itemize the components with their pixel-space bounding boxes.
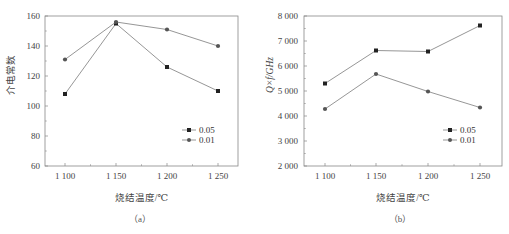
data-point	[426, 50, 430, 54]
series-line-0.01	[325, 74, 480, 109]
x-tick-label: 1 100	[55, 171, 76, 181]
legend-label: 0.01	[460, 135, 476, 145]
y-tick-label: 80	[31, 131, 41, 141]
data-point	[216, 89, 220, 93]
series-line-0.05	[325, 26, 480, 84]
legend-label: 0.05	[460, 125, 476, 135]
y-tick-label: 60	[31, 161, 41, 171]
y-tick-label: 7 000	[278, 36, 299, 46]
y-axis-label: Q×f/GHz	[265, 57, 275, 93]
x-tick-label: 1 250	[208, 171, 229, 181]
y-tick-label: 5 000	[278, 86, 299, 96]
chart-a: 60801001201401601 1001 1501 2001 250烧结温度…	[5, 11, 238, 224]
series-line-0.01	[65, 22, 218, 60]
y-tick-label: 120	[27, 71, 41, 81]
chart-b: 2 0003 0004 0005 0006 0007 0008 0001 100…	[265, 11, 502, 224]
y-tick-label: 8 000	[278, 11, 299, 21]
x-tick-label: 1 150	[366, 171, 387, 181]
x-tick-label: 1 100	[315, 171, 336, 181]
figure: 60801001201401601 1001 1501 2001 250烧结温度…	[0, 0, 509, 234]
x-tick-label: 1 200	[157, 171, 178, 181]
series-line-0.05	[65, 24, 218, 95]
y-tick-label: 3 000	[278, 136, 299, 146]
y-axis-label: 介电常数	[5, 55, 16, 95]
data-point	[323, 82, 327, 86]
data-point	[374, 49, 378, 53]
y-tick-label: 160	[27, 11, 41, 21]
x-axis-label: 烧结温度/℃	[376, 192, 430, 203]
data-point	[426, 89, 430, 93]
data-point	[478, 24, 482, 28]
x-tick-label: 1 150	[106, 171, 127, 181]
x-axis-label: 烧结温度/℃	[115, 192, 169, 203]
x-tick-label: 1 200	[418, 171, 439, 181]
y-tick-label: 2 000	[278, 161, 299, 171]
figure-caption: （a）	[129, 214, 151, 224]
y-tick-label: 6 000	[278, 61, 299, 71]
data-point	[165, 27, 169, 31]
figure-caption: （b）	[389, 214, 412, 224]
y-tick-label: 4 000	[278, 111, 299, 121]
data-point	[63, 92, 67, 96]
legend-label: 0.05	[199, 125, 215, 135]
y-tick-label: 140	[27, 41, 41, 51]
y-tick-label: 100	[27, 101, 41, 111]
x-tick-label: 1 250	[470, 171, 491, 181]
legend-label: 0.01	[199, 135, 215, 145]
data-point	[216, 44, 220, 48]
data-point	[63, 57, 67, 61]
data-point	[478, 105, 482, 109]
data-point	[114, 20, 118, 24]
data-point	[323, 107, 327, 111]
data-point	[165, 65, 169, 69]
data-point	[374, 72, 378, 76]
